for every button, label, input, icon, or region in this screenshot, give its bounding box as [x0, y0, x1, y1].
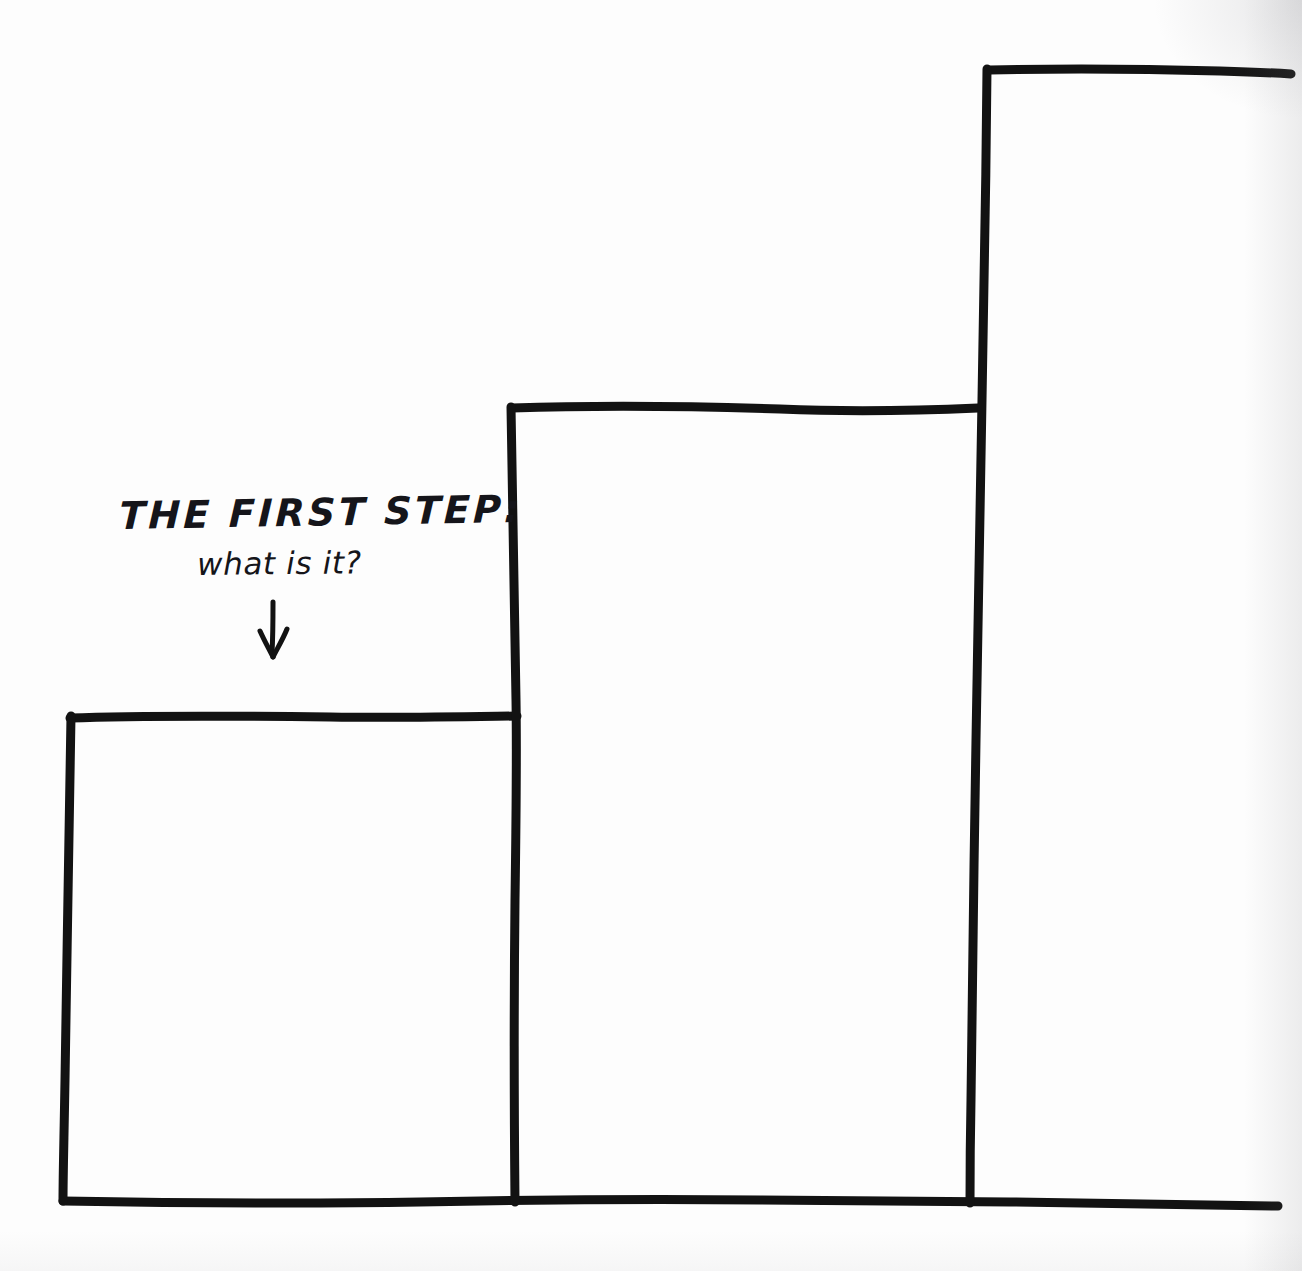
down-arrow-icon	[260, 602, 287, 657]
down-arrow-shaft	[272, 602, 273, 653]
annotation-layer	[0, 0, 1302, 1271]
drawing-canvas: THE FIRST STEP: what is it?	[0, 0, 1302, 1271]
